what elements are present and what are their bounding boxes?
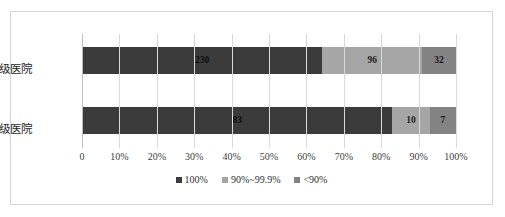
x-tick-label: 50% <box>260 152 278 162</box>
legend-label: 90%~99.9% <box>231 175 281 185</box>
legend-item[interactable]: 90%~99.9% <box>222 175 281 185</box>
x-tick-label: 30% <box>185 152 203 162</box>
x-tick-label: 70% <box>335 152 353 162</box>
gridline-80 <box>381 34 382 148</box>
legend-item[interactable]: <90% <box>294 175 327 185</box>
legend-item[interactable]: 100% <box>176 175 208 185</box>
bar-value-label: 96 <box>367 56 377 66</box>
bar-segment-under-90[interactable]: 7 <box>430 107 456 134</box>
gridline-50 <box>269 34 270 148</box>
gridline-40 <box>232 34 233 148</box>
x-tick-label: 60% <box>297 152 315 162</box>
x-tick-label: 10% <box>110 152 128 162</box>
bar-segment-90-99[interactable]: 96 <box>322 47 422 74</box>
bar-value-label: 83 <box>232 116 242 126</box>
bar-value-label: 32 <box>434 56 444 66</box>
legend-label: <90% <box>303 175 327 185</box>
chart-legend: 100%90%~99.9%<90% <box>11 175 492 185</box>
legend-swatch-icon <box>294 177 300 183</box>
legend-swatch-icon <box>222 177 228 183</box>
x-tick-label: 90% <box>409 152 427 162</box>
chart-frame: 三级医院 二级医院 230 96 32 83 10 7 <box>10 11 493 205</box>
x-tick-label: 100% <box>444 152 467 162</box>
plot-area: 230 96 32 83 10 7 <box>82 34 456 148</box>
category-label-secondary-hospital: 二级医院 <box>0 124 45 136</box>
x-tick-label: 20% <box>148 152 166 162</box>
bar-segment-90-99[interactable]: 10 <box>392 107 429 134</box>
gridline-60 <box>306 34 307 148</box>
gridline-10 <box>119 34 120 148</box>
bar-segment-100pct[interactable]: 83 <box>82 107 392 134</box>
bar-value-label: 10 <box>406 116 416 126</box>
x-tick-label: 40% <box>222 152 240 162</box>
bar-segment-100pct[interactable]: 230 <box>82 47 322 74</box>
gridline-90 <box>419 34 420 148</box>
gridline-30 <box>194 34 195 148</box>
category-label-tertiary-hospital: 三级医院 <box>0 64 45 76</box>
bar-segment-under-90[interactable]: 32 <box>422 47 455 74</box>
x-axis-tick-labels: 010%20%30%40%50%60%70%80%90%100% <box>82 152 456 168</box>
gridline-100 <box>456 34 457 148</box>
legend-swatch-icon <box>176 177 182 183</box>
x-tick-label: 0 <box>80 152 85 162</box>
gridline-70 <box>344 34 345 148</box>
gridline-20 <box>157 34 158 148</box>
legend-label: 100% <box>185 175 208 185</box>
gridline-0 <box>82 34 83 148</box>
bar-value-label: 230 <box>195 56 209 66</box>
bar-value-label: 7 <box>441 116 446 126</box>
x-tick-label: 80% <box>372 152 390 162</box>
